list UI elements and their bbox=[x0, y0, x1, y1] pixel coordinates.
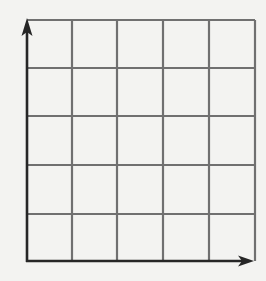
coordinate-grid-diagram bbox=[0, 0, 266, 281]
grid-canvas bbox=[0, 0, 266, 281]
grid-lines bbox=[27, 20, 255, 261]
axes bbox=[22, 18, 255, 267]
